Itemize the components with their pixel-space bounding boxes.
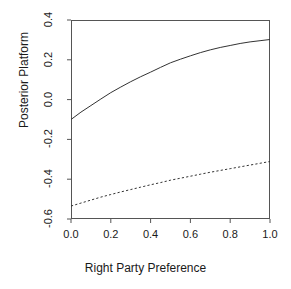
x-tick-label: 0.6 [170,229,210,240]
x-tick-label: 1.0 [250,229,290,240]
x-tick-label: 0.8 [210,229,250,240]
y-tick-label: 0.4 [43,5,54,35]
x-tick-label: 0.0 [51,229,91,240]
y-axis-ticks [67,20,71,219]
chart-figure: 0.40.20.0-0.2-0.4-0.6 0.00.20.40.60.81.0… [0,0,291,289]
x-axis-ticks [71,219,270,223]
y-tick-label: -0.2 [43,124,54,154]
y-tick-label: 0.2 [43,44,54,74]
x-tick-label: 0.4 [131,229,171,240]
x-axis-title: Right Party Preference [0,262,291,274]
x-tick-label: 0.2 [91,229,131,240]
y-axis-title: Posterior Platform [18,12,30,148]
y-tick-label: -0.4 [43,164,54,194]
y-tick-label: 0.0 [43,84,54,114]
data-series-dashed-line [71,161,270,206]
data-series-solid-line [71,40,270,120]
